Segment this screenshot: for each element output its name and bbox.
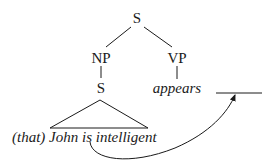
clause-triangle: [50, 100, 148, 128]
node-np: NP: [91, 51, 110, 66]
node-s-embedded: S: [97, 81, 105, 96]
edge-s-vp: [144, 27, 172, 47]
clause-text: John is intelligent: [49, 129, 156, 145]
node-vp: VP: [167, 51, 186, 66]
node-s-root: S: [133, 11, 141, 26]
movement-arrow: [90, 95, 235, 159]
edge-s-np: [106, 27, 131, 47]
complementizer: (that): [12, 129, 45, 145]
subject-clause: (that) John is intelligent: [12, 130, 157, 145]
node-verb-appears: appears: [153, 81, 201, 96]
